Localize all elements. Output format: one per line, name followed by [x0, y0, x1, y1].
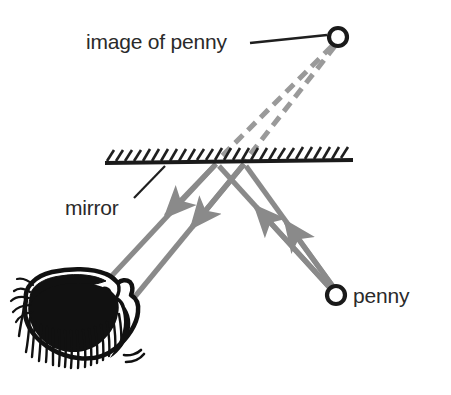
image-of-penny-label: image of penny — [86, 30, 227, 53]
incident-rays — [219, 166, 334, 288]
image-of-penny-marker — [329, 28, 347, 46]
ray-diagram-figure: image of penny mirror penny — [0, 0, 451, 395]
mirror-surface — [105, 147, 353, 163]
virtual-ray-a — [217, 46, 332, 161]
virtual-dashed-rays — [217, 46, 335, 161]
diagram-canvas: image of penny mirror penny — [0, 0, 451, 395]
jaw-detail — [124, 350, 144, 362]
incident-ray-a-arrowhead-segment — [256, 207, 330, 288]
mirror-label: mirror — [65, 196, 119, 219]
penny-marker — [327, 286, 345, 304]
mirror-leader-line — [134, 166, 165, 198]
light-rays-group — [106, 46, 335, 299]
reflected-ray-b-arrowhead-segment — [192, 164, 244, 227]
virtual-ray-b — [245, 46, 335, 161]
mirror-line — [105, 160, 353, 163]
penny-label: penny — [353, 284, 410, 307]
observer-head-icon — [11, 269, 144, 368]
incident-ray-b-arrowhead-segment — [286, 222, 334, 288]
image-of-penny-leader-line — [250, 35, 327, 43]
